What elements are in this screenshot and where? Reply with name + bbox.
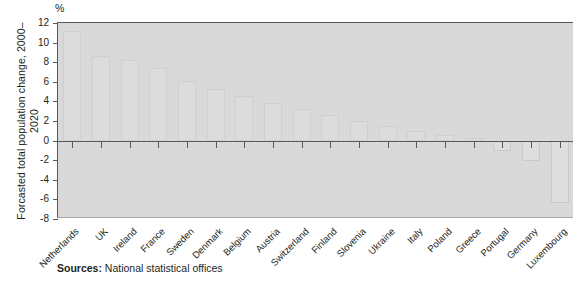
x-tick (359, 141, 360, 148)
y-tick-label: 2 (23, 115, 49, 126)
y-tick (53, 199, 58, 200)
bar-sweden (178, 81, 196, 141)
y-tick-label: -6 (23, 193, 49, 204)
x-tick (474, 141, 475, 148)
y-tick-label: 8 (23, 56, 49, 67)
y-tick-label: -8 (23, 213, 49, 224)
y-tick-label: 12 (23, 17, 49, 28)
y-axis-unit: % (55, 2, 64, 14)
y-tick-label: 0 (23, 134, 49, 145)
x-tick (416, 141, 417, 148)
y-tick (53, 43, 58, 44)
source-value: National statistical offices (105, 262, 223, 274)
bar-uk (92, 56, 110, 140)
x-tick (531, 141, 532, 148)
x-tick (216, 141, 217, 148)
y-tick (53, 82, 58, 83)
bar-finland (321, 115, 339, 140)
source-note: Sources: National statistical offices (57, 262, 223, 274)
x-tick-label-netherlands: Netherlands (10, 226, 81, 284)
chart-figure: % Forcasted total population change, 200… (0, 0, 584, 284)
zero-baseline (58, 141, 573, 142)
y-tick-label: -4 (23, 173, 49, 184)
y-tick-label: 4 (23, 95, 49, 106)
bar-denmark (207, 89, 225, 141)
bar-ukraine (379, 126, 397, 141)
y-tick (53, 160, 58, 161)
y-tick (53, 121, 58, 122)
x-tick (101, 141, 102, 148)
y-tick (53, 101, 58, 102)
bar-ireland (121, 60, 139, 140)
bar-switzerland (293, 109, 311, 140)
bar-belgium (235, 96, 253, 141)
x-tick (72, 141, 73, 148)
bar-austria (264, 103, 282, 140)
source-label: Sources: (57, 262, 102, 274)
bar-france (149, 68, 167, 141)
y-tick (53, 180, 58, 181)
x-tick (158, 141, 159, 148)
x-tick (502, 141, 503, 148)
y-tick-label: 10 (23, 36, 49, 47)
x-tick (445, 141, 446, 148)
x-tick (187, 141, 188, 148)
y-tick-label: 6 (23, 75, 49, 86)
x-tick (273, 141, 274, 148)
x-tick (560, 141, 561, 148)
x-tick (388, 141, 389, 148)
bar-italy (407, 131, 425, 141)
x-tick (244, 141, 245, 148)
x-tick (302, 141, 303, 148)
bar-slovenia (350, 121, 368, 141)
x-tick (330, 141, 331, 148)
bar-netherlands (63, 31, 81, 141)
bar-luxembourg (551, 141, 569, 204)
x-tick (130, 141, 131, 148)
y-tick-label: -2 (23, 154, 49, 165)
y-tick (53, 219, 58, 220)
y-tick (53, 23, 58, 24)
plot-area (57, 22, 573, 218)
y-tick (53, 62, 58, 63)
